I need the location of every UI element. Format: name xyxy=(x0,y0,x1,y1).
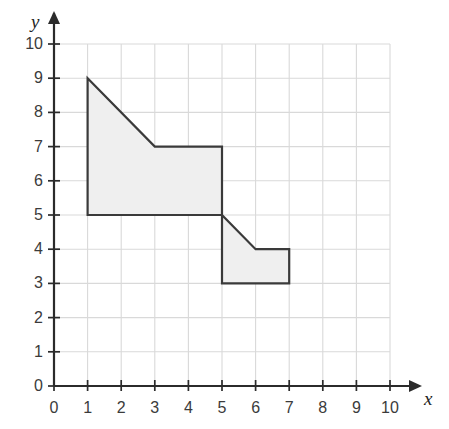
y-tick-label: 6 xyxy=(34,173,43,189)
x-tick-label: 3 xyxy=(150,400,159,416)
y-tick-label: 0 xyxy=(34,378,43,394)
coordinate-grid-figure: 012345678910 012345678910 y x xyxy=(0,0,449,429)
x-tick-label: 9 xyxy=(352,400,361,416)
y-tick-label: 5 xyxy=(34,207,43,223)
y-tick-label: 10 xyxy=(25,36,43,52)
x-tick-label: 1 xyxy=(83,400,92,416)
x-tick-label: 5 xyxy=(218,400,227,416)
x-axis-arrow-icon xyxy=(409,380,422,392)
x-tick-label: 2 xyxy=(117,400,126,416)
plot-canvas xyxy=(0,0,449,429)
y-tick-label: 9 xyxy=(34,70,43,86)
y-axis-arrow-icon xyxy=(48,11,60,24)
y-tick-label: 2 xyxy=(34,310,43,326)
y-tick-label: 3 xyxy=(34,275,43,291)
y-axis-label: y xyxy=(31,12,39,31)
x-tick-label: 0 xyxy=(50,400,59,416)
y-tick-label: 8 xyxy=(34,104,43,120)
x-tick-label: 8 xyxy=(318,400,327,416)
y-tick-label: 1 xyxy=(34,344,43,360)
y-tick-label: 7 xyxy=(34,139,43,155)
x-axis-label: x xyxy=(424,389,432,408)
x-tick-label: 6 xyxy=(251,400,260,416)
y-tick-label: 4 xyxy=(34,241,43,257)
x-tick-label: 10 xyxy=(381,400,399,416)
x-tick-label: 4 xyxy=(184,400,193,416)
x-tick-label: 7 xyxy=(285,400,294,416)
